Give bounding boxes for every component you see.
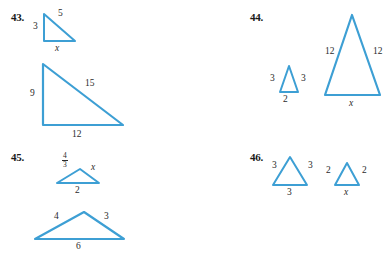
- label-46-left-tri-right: 3: [308, 161, 313, 171]
- label-46-left-tri-bottom: 3: [287, 188, 292, 198]
- label-44-small-left: 3: [270, 74, 275, 84]
- worksheet-page: 43. 3 5 x 9 15 12 44. 3 3 2 12 12 x 45. …: [0, 0, 391, 260]
- triangle-44-small: [280, 66, 298, 92]
- problem-number-46: 46.: [250, 151, 263, 163]
- label-46-left-tri-left: 3: [272, 161, 277, 171]
- label-46-right-tri-bottom: x: [344, 188, 348, 198]
- label-46-right-tri-right: 2: [362, 166, 367, 176]
- label-43-small-bottom: x: [55, 44, 59, 54]
- label-46-right-tri-left: 2: [326, 166, 331, 176]
- label-43-small-hyp: 5: [58, 9, 63, 19]
- triangle-46-right: [335, 163, 359, 185]
- triangle-45-large: [35, 212, 124, 239]
- label-45-large-left: 4: [54, 212, 59, 222]
- label-45-small-bottom: 2: [75, 186, 80, 196]
- label-44-large-left: 12: [325, 47, 335, 57]
- fraction-numerator: 4: [62, 152, 68, 160]
- label-45-large-right: 3: [104, 212, 109, 222]
- label-44-large-right: 12: [373, 47, 383, 57]
- label-43-large-hyp: 15: [85, 79, 95, 89]
- problem-number-45: 45.: [11, 151, 24, 163]
- label-43-large-left: 9: [30, 89, 35, 99]
- triangle-46-left: [273, 157, 307, 185]
- label-45-large-bottom: 6: [76, 242, 81, 252]
- problem-number-43: 43.: [11, 11, 24, 23]
- label-45-small-right: x: [91, 163, 95, 173]
- label-44-small-right: 3: [301, 74, 306, 84]
- problem-number-44: 44.: [250, 11, 263, 23]
- label-44-small-bottom: 2: [283, 95, 288, 105]
- triangle-43-large: [43, 64, 123, 125]
- label-43-large-bottom: 12: [72, 130, 82, 140]
- label-43-small-left: 3: [33, 22, 38, 32]
- fraction-denominator: 3: [62, 160, 68, 169]
- label-45-small-left-fraction: 4 3: [62, 152, 68, 169]
- label-44-large-bottom: x: [349, 99, 353, 109]
